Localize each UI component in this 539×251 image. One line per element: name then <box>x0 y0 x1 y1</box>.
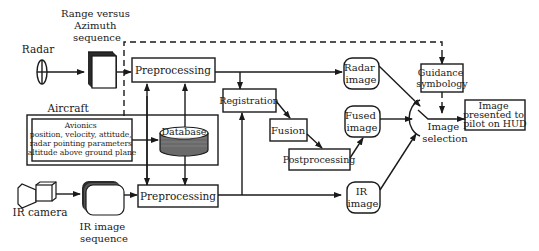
preprocessing-bottom-label: Preprocessing <box>140 190 216 202</box>
fusion-label: Fusion <box>271 125 306 136</box>
radar-ir-fusion-diagram: Radar Range versus Azimuth sequence Prep… <box>0 0 539 251</box>
radar-dish-icon <box>37 60 47 84</box>
radar-label: Radar <box>22 43 55 55</box>
radar-image-label: Radar image <box>344 62 378 85</box>
preprocessing-top-label: Preprocessing <box>135 64 211 76</box>
postprocessing-label: Postprocessing <box>283 154 356 165</box>
aircraft-label: Aircraft <box>46 102 89 114</box>
ir-sequence-label: IR image sequence <box>80 221 129 244</box>
image-selection-label: Image selection <box>422 121 468 144</box>
ir-camera-icon <box>18 182 56 208</box>
guidance-symbology-label: Guidance symbology <box>416 67 468 89</box>
registration-label: Registration <box>219 95 279 106</box>
ir-camera-label: IR camera <box>13 206 68 218</box>
range-azimuth-label: Range versus Azimuth sequence <box>61 8 133 43</box>
fused-image-label: Fused image <box>345 110 379 133</box>
ir-image-sequence-icon <box>82 181 124 215</box>
image-selection-arc <box>409 100 420 136</box>
database-label: Database <box>161 126 206 137</box>
range-azimuth-sequence-icon <box>88 52 117 88</box>
